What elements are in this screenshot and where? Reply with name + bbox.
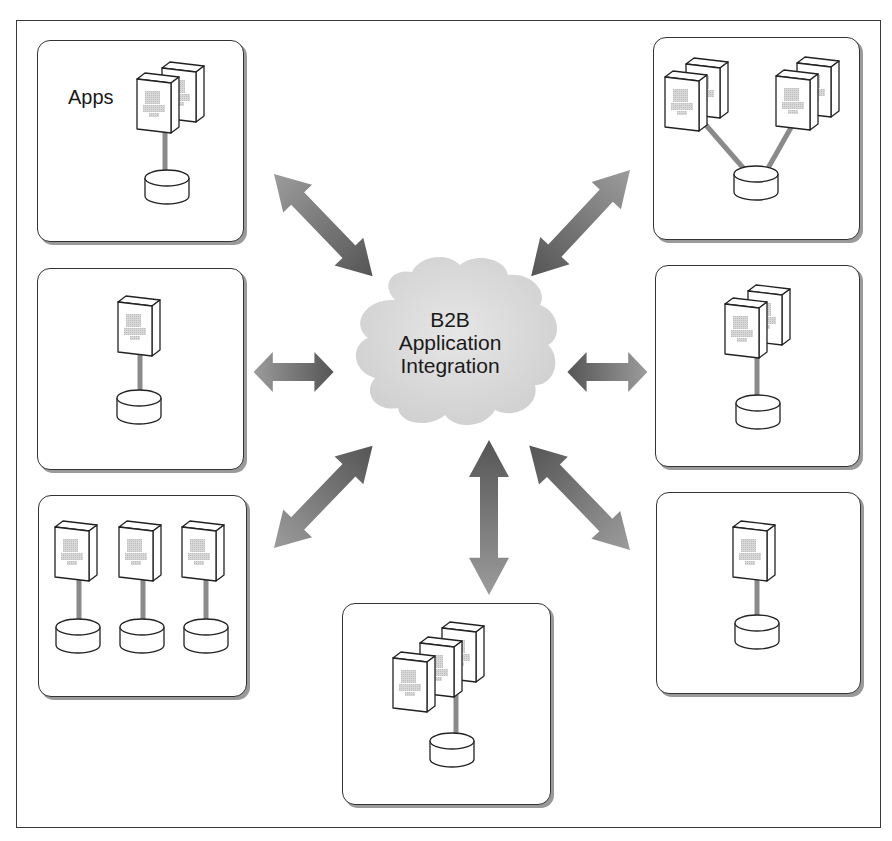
- server-icon: [137, 73, 179, 133]
- apps-label: Apps: [68, 86, 114, 109]
- database-icon: [117, 390, 161, 424]
- diagram-canvas: Apps B2B Application Integration: [0, 0, 892, 841]
- node-middle-right-contents: [725, 285, 790, 429]
- arrow-middle-left-hub: [254, 352, 334, 392]
- server-icon: [182, 521, 224, 581]
- server-icon: [393, 652, 435, 712]
- hub-label-line-1: B2B: [370, 308, 530, 331]
- database-icon: [735, 615, 779, 649]
- arrow-bottom-left-hub: [260, 432, 387, 562]
- server-icon: [665, 71, 707, 131]
- server-icon: [55, 521, 97, 581]
- server-icon: [119, 521, 161, 581]
- database-icon: [430, 733, 474, 767]
- hub-label: B2B Application Integration: [370, 308, 530, 377]
- database-icon: [120, 619, 164, 653]
- database-icon: [734, 166, 778, 200]
- database-icon: [736, 395, 780, 429]
- hub-label-line-3: Integration: [370, 354, 530, 377]
- node-middle-left-contents: [117, 296, 161, 424]
- diagram-graphics: [0, 0, 892, 841]
- node-bottom-left-contents: [55, 521, 228, 653]
- node-bottom-right-contents: [733, 521, 779, 649]
- arrow-top-right-hub: [517, 156, 645, 289]
- database-icon: [184, 619, 228, 653]
- server-icon: [725, 298, 767, 358]
- arrow-bottom-center-hub: [469, 440, 509, 595]
- node-bottom-center-contents: [393, 622, 484, 767]
- database-icon: [56, 619, 100, 653]
- server-icon: [733, 521, 775, 581]
- node-top-left-contents: [137, 62, 204, 204]
- database-icon: [145, 170, 189, 204]
- arrow-middle-right-hub: [567, 352, 647, 392]
- server-icon: [776, 70, 818, 130]
- arrow-bottom-right-hub: [515, 432, 644, 564]
- hub-label-line-2: Application: [370, 331, 530, 354]
- arrow-top-left-hub: [260, 160, 387, 290]
- node-top-right-contents: [665, 57, 839, 200]
- server-icon: [118, 296, 160, 356]
